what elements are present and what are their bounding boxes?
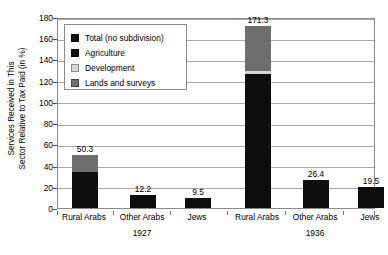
y-axis-tick-label: 40 bbox=[27, 162, 53, 172]
bar[interactable]: 12.2 bbox=[130, 195, 156, 208]
legend-swatch-development-icon bbox=[71, 64, 79, 72]
y-axis-tick-label: 60 bbox=[27, 140, 53, 150]
bar[interactable]: 9.5 bbox=[185, 198, 211, 208]
x-axis-label: Rural Arabs bbox=[235, 212, 279, 222]
y-axis-tick-mark bbox=[53, 167, 57, 168]
x-axis-tick-mark bbox=[343, 211, 344, 215]
bar-value-label: 9.5 bbox=[192, 187, 204, 197]
y-axis-tick-label: 100 bbox=[27, 98, 53, 108]
x-axis-tick-mark bbox=[113, 211, 114, 215]
x-axis-label: Jews bbox=[360, 212, 379, 222]
x-axis-tick-mark bbox=[227, 211, 228, 215]
y-axis-tick-label: 180 bbox=[27, 13, 53, 23]
y-axis-tick-mark bbox=[53, 60, 57, 61]
bar-value-label: 19.5 bbox=[363, 176, 379, 186]
bar[interactable]: 171.3 bbox=[245, 26, 271, 208]
bar-segment-total bbox=[303, 180, 329, 208]
x-axis-label: Jews bbox=[187, 212, 206, 222]
y-axis-tick-label: 140 bbox=[27, 55, 53, 65]
bar-chart: Services Received in This Sector Relativ… bbox=[0, 0, 388, 255]
bar-segment-agri bbox=[72, 172, 98, 208]
bar-value-label: 12.2 bbox=[135, 184, 151, 194]
x-axis-tick-mark bbox=[170, 211, 171, 215]
x-axis-group-label: 1927 bbox=[133, 228, 152, 238]
x-axis-label: Other Arabs bbox=[120, 212, 165, 222]
y-axis-tick-mark bbox=[53, 18, 57, 19]
bar-value-label: 26.4 bbox=[308, 169, 324, 179]
y-axis-tick-label: 0 bbox=[27, 204, 53, 214]
bar[interactable]: 26.4 bbox=[303, 180, 329, 208]
x-axis-labels: Rural ArabsOther ArabsJewsRural ArabsOth… bbox=[57, 211, 375, 227]
y-axis-tick-mark bbox=[53, 188, 57, 189]
bar-segment-lands bbox=[245, 26, 271, 70]
bar[interactable]: 19.5 bbox=[358, 187, 384, 208]
x-axis-label: Other Arabs bbox=[293, 212, 338, 222]
x-axis-label: Rural Arabs bbox=[62, 212, 106, 222]
bar-segment-total bbox=[358, 187, 384, 208]
legend-label-lands-and-surveys: Lands and surveys bbox=[85, 78, 155, 88]
legend-label-agriculture: Agriculture bbox=[85, 48, 125, 58]
legend-swatch-total-icon bbox=[71, 34, 79, 42]
y-axis-tick-label: 20 bbox=[27, 183, 53, 193]
y-axis-tick-mark bbox=[53, 145, 57, 146]
bar-value-label: 50.3 bbox=[77, 144, 93, 154]
bar-segment-total bbox=[130, 195, 156, 208]
bar[interactable]: 50.3 bbox=[72, 155, 98, 208]
legend-item-lands-and-surveys: Lands and surveys bbox=[71, 75, 180, 90]
legend-swatch-lands-and-surveys-icon bbox=[71, 79, 79, 87]
y-axis-title: Services Received in This Sector Relativ… bbox=[7, 14, 28, 204]
legend-item-agriculture: Agriculture bbox=[71, 45, 180, 60]
legend: Total (no subdivision) Agriculture Devel… bbox=[64, 24, 187, 90]
x-axis-tick-mark bbox=[374, 211, 375, 215]
y-axis-tick-mark bbox=[53, 39, 57, 40]
legend-label-total: Total (no subdivision) bbox=[85, 33, 164, 43]
bar-segment-total bbox=[185, 198, 211, 208]
y-axis-tick-mark bbox=[53, 82, 57, 83]
legend-swatch-agriculture-icon bbox=[71, 49, 79, 57]
x-axis-group-labels: 19271936 bbox=[57, 228, 375, 242]
legend-item-development: Development bbox=[71, 60, 180, 75]
x-axis-tick-mark bbox=[285, 211, 286, 215]
y-axis-tick-label: 160 bbox=[27, 34, 53, 44]
legend-label-development: Development bbox=[85, 63, 134, 73]
legend-item-total: Total (no subdivision) bbox=[71, 30, 180, 45]
y-axis-tick-mark bbox=[53, 209, 57, 210]
y-axis-tick-label: 120 bbox=[27, 77, 53, 87]
bar-segment-agri bbox=[245, 74, 271, 208]
y-axis-tick-mark bbox=[53, 103, 57, 104]
bar-segment-lands bbox=[72, 155, 98, 172]
y-axis-tick-label: 80 bbox=[27, 119, 53, 129]
bar-value-label: 171.3 bbox=[248, 15, 269, 25]
x-axis-tick-mark bbox=[57, 211, 58, 215]
plot-area: 50.312.29.5171.326.419.5 Total (no subdi… bbox=[57, 18, 375, 209]
y-axis-title-container: Services Received in This Sector Relativ… bbox=[0, 0, 30, 215]
y-axis-tick-mark bbox=[53, 124, 57, 125]
x-axis-group-label: 1936 bbox=[306, 228, 325, 238]
